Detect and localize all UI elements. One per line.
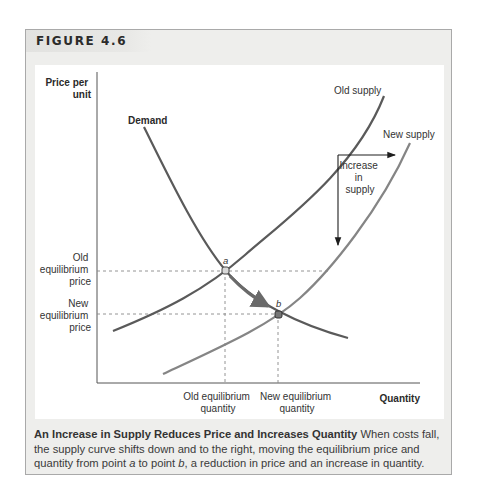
- old-supply-curve: [113, 96, 384, 331]
- point-b-marker: [275, 311, 282, 318]
- equilibrium-guides: [97, 271, 328, 383]
- old-equilibrium-price-label: Old equilibrium price: [40, 252, 92, 287]
- new-supply-label: New supply: [383, 129, 435, 140]
- point-a-marker: [222, 267, 229, 274]
- caption-text: , a reduction in price and an increase i…: [185, 457, 425, 469]
- point-b-label: b: [276, 298, 281, 309]
- new-supply-curve: [163, 143, 410, 374]
- increase-in-supply-label: Increase in supply: [339, 160, 380, 195]
- caption-text: to point: [135, 457, 178, 469]
- supply-demand-chart: Price per unit Quantity Demand Old suppl…: [0, 0, 478, 498]
- x-axis-label: Quantity: [379, 393, 420, 404]
- old-supply-label: Old supply: [334, 85, 381, 96]
- new-equilibrium-price-label: New equilibrium price: [40, 298, 92, 333]
- caption-title: An Increase in Supply Reduces Price and …: [34, 428, 357, 440]
- figure-caption: An Increase in Supply Reduces Price and …: [34, 427, 444, 471]
- movement-arrow: [230, 276, 268, 306]
- old-equilibrium-quantity-label: Old equilibrium quantity: [183, 391, 252, 414]
- y-axis-label: Price per unit: [45, 77, 91, 100]
- demand-label: Demand: [128, 115, 167, 126]
- new-equilibrium-quantity-label: New equilibrium quantity: [260, 391, 334, 414]
- point-a-label: a: [223, 255, 228, 266]
- demand-curve: [144, 127, 348, 338]
